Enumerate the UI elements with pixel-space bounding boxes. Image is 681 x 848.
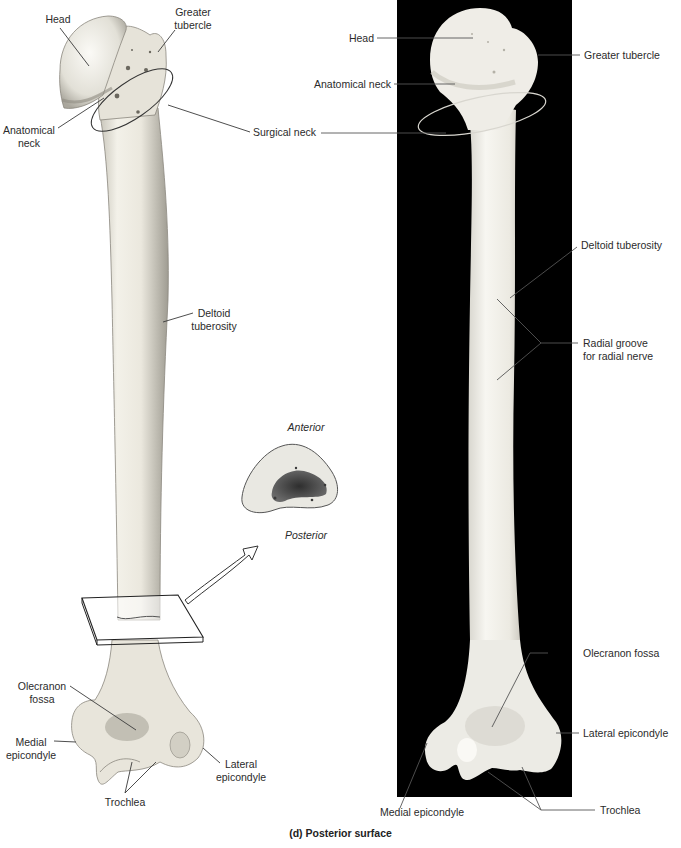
humerus-figure: Head Greater tubercle Anatomical neck Su… <box>0 0 681 848</box>
label-head: Head <box>38 13 78 26</box>
label-lateral-epicondyle: Lateral epicondyle <box>212 758 270 783</box>
label-trochlea: Trochlea <box>100 796 150 809</box>
figure-graphics <box>0 0 681 848</box>
label-medial-epicondyle: Medial epicondyle <box>4 736 58 761</box>
photo-label-radial-groove: Radial groove for radial nerve <box>583 337 653 362</box>
label-deltoid-tuberosity: Deltoid tuberosity <box>184 307 244 332</box>
photo-label-greater-tubercle: Greater tubercle <box>584 49 660 62</box>
photographed-humerus <box>415 8 561 780</box>
photo-label-anatomical-neck: Anatomical neck <box>290 78 391 91</box>
label-surgical-neck: Surgical neck <box>253 126 316 139</box>
label-anatomical-neck: Anatomical neck <box>0 124 58 149</box>
photo-label-deltoid-tuberosity: Deltoid tuberosity <box>581 239 662 252</box>
photo-label-medial-epicondyle: Medial epicondyle <box>380 806 464 819</box>
label-anterior: Anterior <box>276 421 336 434</box>
illustrated-humerus <box>60 16 258 784</box>
label-posterior: Posterior <box>274 529 338 542</box>
photo-label-trochlea: Trochlea <box>600 804 640 817</box>
photo-label-olecranon-fossa: Olecranon fossa <box>583 647 659 660</box>
figure-caption: (d) Posterior surface <box>0 827 681 839</box>
cross-section <box>242 444 338 512</box>
label-olecranon-fossa: Olecranon fossa <box>14 680 70 705</box>
label-greater-tubercle: Greater tubercle <box>168 6 218 31</box>
photo-label-lateral-epicondyle: Lateral epicondyle <box>583 727 668 740</box>
photo-label-head: Head <box>320 32 374 45</box>
